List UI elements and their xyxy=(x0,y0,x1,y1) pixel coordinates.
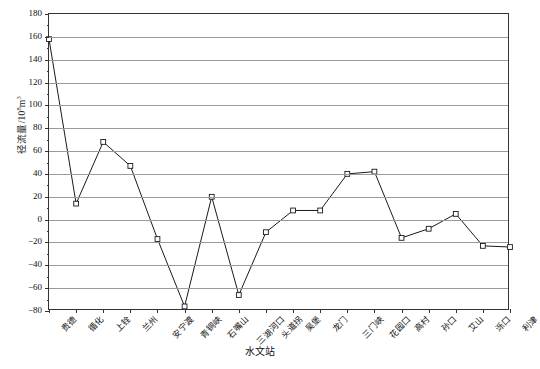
y-tick-mark xyxy=(45,288,49,289)
data-point-marker xyxy=(480,243,485,248)
y-tick-label: 80 xyxy=(14,123,42,132)
data-point-marker xyxy=(508,245,513,250)
x-tick-label: 三门峡 xyxy=(359,312,387,340)
data-point-marker xyxy=(399,235,404,240)
data-point-marker xyxy=(74,201,79,206)
x-tick-label: 吴堡 xyxy=(302,312,323,333)
gridline xyxy=(49,105,508,106)
y-minor-tick-mark xyxy=(47,25,50,26)
gridline xyxy=(49,220,508,221)
gridline xyxy=(49,242,508,243)
y-minor-tick-mark xyxy=(47,94,50,95)
y-tick-label: 140 xyxy=(14,54,42,63)
y-tick-mark xyxy=(45,151,49,152)
y-tick-label: −80 xyxy=(14,306,42,315)
plot-area xyxy=(48,13,509,310)
data-point-marker xyxy=(101,140,106,145)
x-axis-title: 水文站 xyxy=(0,343,519,358)
gridline xyxy=(49,197,508,198)
x-tick-label: 艾山 xyxy=(465,312,486,333)
y-tick-label: −60 xyxy=(14,283,42,292)
data-point-marker xyxy=(426,226,431,231)
data-point-marker xyxy=(318,208,323,213)
x-tick-label: 循化 xyxy=(85,312,106,333)
y-minor-tick-mark xyxy=(47,277,50,278)
x-tick-label: 龙门 xyxy=(329,312,350,333)
y-tick-mark xyxy=(45,265,49,266)
y-tick-mark xyxy=(45,105,49,106)
gridline xyxy=(49,265,508,266)
data-point-marker xyxy=(264,230,269,235)
y-tick-label: 160 xyxy=(14,31,42,40)
x-tick-label: 孙口 xyxy=(437,312,458,333)
series-polyline xyxy=(49,39,510,306)
y-axis-tick-labels: 180160140120100806040200−20−40−60−80 xyxy=(14,0,42,369)
data-point-marker xyxy=(291,208,296,213)
y-tick-label: 100 xyxy=(14,100,42,109)
y-tick-label: −40 xyxy=(14,260,42,269)
x-tick-mark xyxy=(510,309,511,313)
y-tick-label: 60 xyxy=(14,146,42,155)
y-tick-mark xyxy=(45,197,49,198)
y-minor-tick-mark xyxy=(47,300,50,301)
y-tick-mark xyxy=(45,83,49,84)
y-tick-label: −20 xyxy=(14,237,42,246)
y-tick-label: 20 xyxy=(14,191,42,200)
x-tick-label: 石嘴山 xyxy=(223,312,251,340)
y-tick-mark xyxy=(45,37,49,38)
y-minor-tick-mark xyxy=(47,117,50,118)
y-tick-mark xyxy=(45,220,49,221)
y-tick-mark xyxy=(45,14,49,15)
y-minor-tick-mark xyxy=(47,208,50,209)
y-tick-mark xyxy=(45,174,49,175)
gridline xyxy=(49,128,508,129)
gridline xyxy=(49,60,508,61)
x-tick-label: 上铨 xyxy=(112,312,133,333)
y-tick-mark xyxy=(45,128,49,129)
x-tick-label: 花园口 xyxy=(386,312,414,340)
y-minor-tick-mark xyxy=(47,254,50,255)
y-tick-mark xyxy=(45,242,49,243)
y-minor-tick-mark xyxy=(47,71,50,72)
gridline xyxy=(49,288,508,289)
y-tick-mark xyxy=(45,60,49,61)
data-point-marker xyxy=(155,237,160,242)
y-minor-tick-mark xyxy=(47,185,50,186)
gridline xyxy=(49,151,508,152)
x-tick-label: 兰州 xyxy=(139,312,160,333)
data-point-marker xyxy=(236,293,241,298)
y-tick-label: 40 xyxy=(14,168,42,177)
x-tick-label: 安宁渡 xyxy=(169,312,197,340)
y-minor-tick-mark xyxy=(47,140,50,141)
gridline xyxy=(49,174,508,175)
y-tick-label: 180 xyxy=(14,9,42,18)
y-tick-label: 120 xyxy=(14,77,42,86)
gridline xyxy=(49,37,508,38)
y-tick-label: 0 xyxy=(14,214,42,223)
y-minor-tick-mark xyxy=(47,163,50,164)
x-tick-label: 贵德 xyxy=(58,312,79,333)
x-tick-label: 青铜峡 xyxy=(196,312,224,340)
gridline xyxy=(49,83,508,84)
y-minor-tick-mark xyxy=(47,231,50,232)
x-tick-label: 利津 xyxy=(519,312,540,333)
x-tick-label: 泺口 xyxy=(492,312,513,333)
data-series-line xyxy=(49,14,510,311)
x-tick-label: 高村 xyxy=(410,312,431,333)
data-point-marker xyxy=(453,212,458,217)
data-point-marker xyxy=(128,164,133,169)
y-minor-tick-mark xyxy=(47,48,50,49)
